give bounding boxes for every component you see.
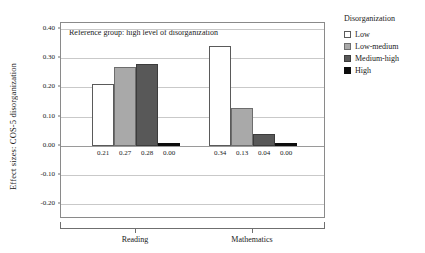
bar-reading-low-medium (114, 67, 136, 146)
bar-value-label: 0.04 (258, 149, 270, 157)
category-tick-mark (135, 228, 136, 233)
legend-items: LowLow-mediumMedium-highHigh (344, 30, 424, 75)
y-axis-tick-label: 0.30 (43, 53, 55, 61)
y-axis-tick-label: 0.00 (43, 141, 55, 149)
bar-reading-medium-high (136, 64, 158, 146)
category-axis: ReadingMathematics (60, 228, 325, 229)
legend-swatch-icon (344, 43, 351, 50)
gridline (61, 175, 324, 176)
gridline (61, 204, 324, 205)
bar-mathematics-medium-high (253, 134, 275, 146)
legend-item-high[interactable]: High (344, 66, 424, 75)
legend-item-low-medium[interactable]: Low-medium (344, 42, 424, 51)
gridline (61, 58, 324, 59)
legend-item-medium-high[interactable]: Medium-high (344, 54, 424, 63)
legend-item-low[interactable]: Low (344, 30, 424, 39)
y-axis-tick-label: 0.10 (43, 112, 55, 120)
legend-item-label: Medium-high (355, 54, 399, 63)
bar-reading-high (158, 143, 180, 146)
bar-value-label: 0.21 (97, 149, 109, 157)
gridline (61, 146, 324, 147)
y-axis-title-text: Effect sizes: COS-5 disorganization (8, 63, 18, 190)
y-axis-tick-label: 0.40 (43, 24, 55, 32)
bar-value-label: 0.28 (141, 149, 153, 157)
bar-mathematics-low-medium (231, 108, 253, 146)
bar-mathematics-high (275, 143, 297, 146)
bar-value-label: 0.00 (163, 149, 175, 157)
bar-mathematics-low (209, 46, 231, 145)
category-label-mathematics: Mathematics (231, 235, 272, 244)
legend-swatch-icon (344, 67, 351, 74)
bar-value-label: 0.27 (119, 149, 131, 157)
y-axis-title: Effect sizes: COS-5 disorganization (2, 0, 24, 253)
legend-item-label: Low-medium (355, 42, 399, 51)
legend-swatch-icon (344, 31, 351, 38)
y-axis-tick-label: -0.10 (40, 170, 55, 178)
bar-value-label: 0.34 (214, 149, 226, 157)
y-axis-tick-labels: 0.400.300.200.100.00-0.10-0.20 (24, 0, 58, 253)
gridline (61, 29, 324, 30)
bar-value-label: 0.00 (280, 149, 292, 157)
legend-title: Disorganization (344, 14, 424, 23)
legend: Disorganization LowLow-mediumMedium-high… (344, 14, 424, 78)
plot-area: Reference group: high level of disorgani… (60, 22, 325, 218)
legend-item-label: Low (355, 30, 370, 39)
y-axis-tick-label: 0.20 (43, 82, 55, 90)
category-tick-mark (252, 228, 253, 233)
y-axis-tick-label: -0.20 (40, 199, 55, 207)
bar-value-label: 0.13 (236, 149, 248, 157)
bar-reading-low (92, 84, 114, 145)
legend-swatch-icon (344, 55, 351, 62)
category-label-reading: Reading (122, 235, 149, 244)
legend-item-label: High (355, 66, 371, 75)
